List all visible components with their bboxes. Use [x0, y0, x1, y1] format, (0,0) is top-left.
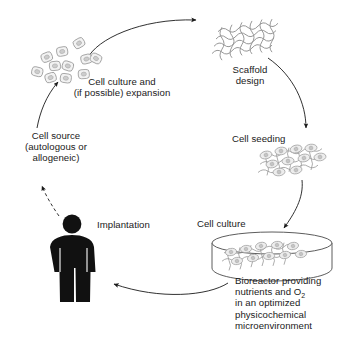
arrow-culture-to-scaffold	[88, 20, 196, 58]
arrow-seeding-to-bioreactor	[284, 180, 302, 228]
arrow-bioreactor-to-implantation	[114, 283, 228, 294]
seeded-scaffold-icon	[258, 144, 326, 177]
label-cell-seeding-text: Cell seeding	[232, 133, 285, 144]
label-cell-source-line3: allogeneic)	[33, 152, 80, 163]
label-bioreactor-description: Bioreactor providingnutrients and O2in a…	[235, 275, 343, 331]
label-bioreactor-line3: in an optimized	[235, 297, 300, 308]
label-cell-source-line2: (autologous or	[25, 141, 87, 152]
label-bioreactor-o2-subscript: 2	[301, 292, 305, 299]
label-implantation-text: Implantation	[97, 219, 150, 230]
human-figure-icon	[50, 215, 96, 302]
label-scaffold-design: Scaffolddesign	[215, 64, 285, 86]
label-bioreactor-line1: Bioreactor providing	[235, 275, 321, 286]
petri-dish-icon	[212, 232, 332, 281]
label-scaffold-design-line1: Scaffold	[233, 64, 268, 75]
label-cell-source: Cell source(autologous orallogeneic)	[8, 130, 104, 164]
label-cell-source-line1: Cell source	[32, 130, 81, 141]
label-cell-seeding: Cell seeding	[232, 133, 302, 144]
label-bioreactor-line2: nutrients and O	[235, 286, 301, 297]
label-cell-culture: Cell culture	[197, 218, 259, 229]
tissue-engineering-cycle-diagram: Cell culture and(if possible) expansion …	[0, 0, 343, 339]
label-bioreactor-line5: microenvironment	[235, 320, 312, 331]
label-cell-culture-expansion-line1: Cell culture and	[88, 76, 155, 87]
label-implantation: Implantation	[97, 219, 175, 230]
label-scaffold-design-line2: design	[236, 75, 265, 86]
label-cell-culture-expansion: Cell culture and(if possible) expansion	[52, 76, 192, 98]
scaffold-mesh-icon	[212, 17, 278, 61]
label-cell-culture-expansion-line2: (if possible) expansion	[74, 87, 171, 98]
label-bioreactor-line4: physicochemical	[235, 309, 306, 320]
label-cell-culture-text: Cell culture	[197, 218, 246, 229]
arrow-patient-to-source	[42, 186, 59, 216]
